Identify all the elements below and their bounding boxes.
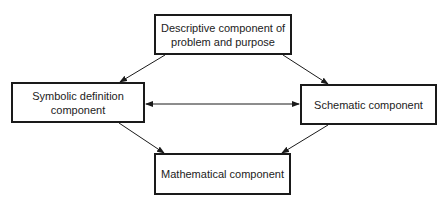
node-label: Descriptive component of problem and pur… [160,21,286,49]
edge-descriptive-to-schematic [283,55,328,84]
node-symbolic-definition-component: Symbolic definition component [11,82,145,123]
node-label: Schematic component [314,98,423,112]
node-descriptive-component: Descriptive component of problem and pur… [154,14,292,55]
edge-descriptive-to-symbolic [120,55,165,82]
node-mathematical-component: Mathematical component [154,153,291,195]
node-label: Symbolic definition component [17,89,139,117]
diagram-canvas: Descriptive component of problem and pur… [0,0,447,205]
node-schematic-component: Schematic component [300,84,437,125]
edge-symbolic-to-mathematical [119,123,164,153]
node-label: Mathematical component [161,167,284,181]
edge-schematic-to-mathematical [282,125,328,153]
